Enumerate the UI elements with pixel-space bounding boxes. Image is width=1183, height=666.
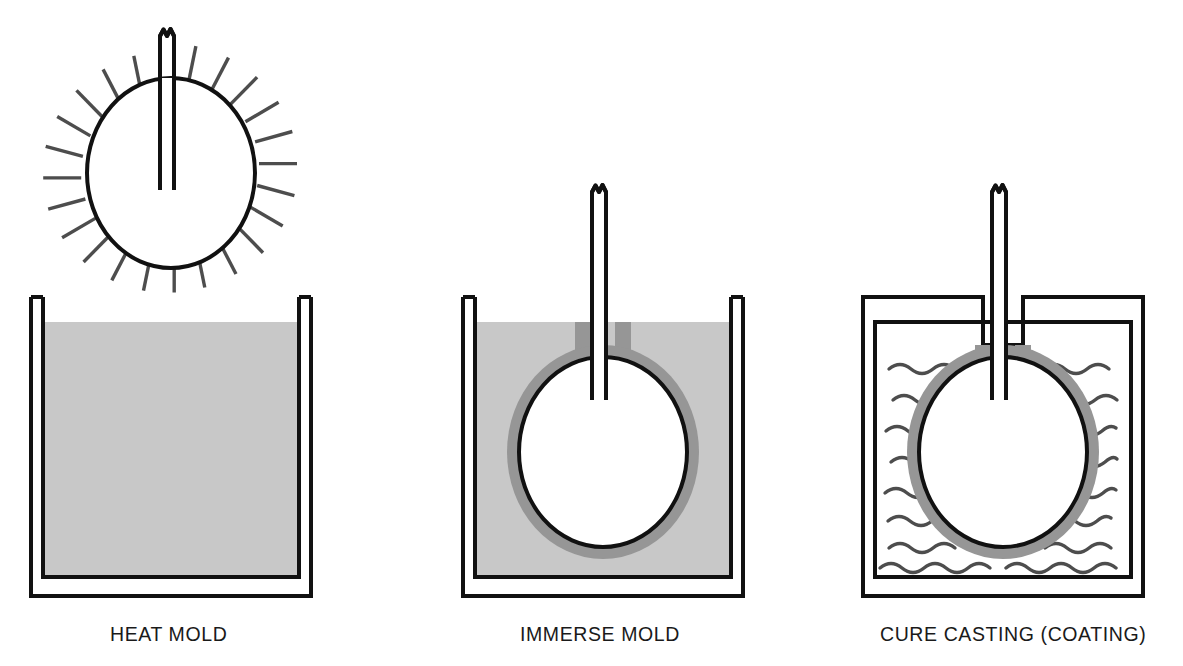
dip-molding-process-diagram: HEAT MOLD xyxy=(0,0,1183,666)
panel-label-cure-casting: CURE CASTING (COATING) xyxy=(880,623,1146,645)
diagram-canvas: HEAT MOLD xyxy=(0,0,1183,666)
liquid-fill-1 xyxy=(43,322,299,577)
mold-neck-interior-1 xyxy=(160,78,174,190)
panel-label-immerse-mold: IMMERSE MOLD xyxy=(520,623,680,645)
tank-vessel-1 xyxy=(31,297,311,596)
panel-label-heat-mold: HEAT MOLD xyxy=(110,623,227,645)
